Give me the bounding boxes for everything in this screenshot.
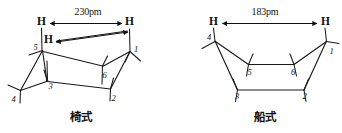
- boat-number-1: 1: [329, 46, 333, 56]
- chair-caption: 椅式: [70, 110, 93, 124]
- chair-inner-arrow: [56, 32, 128, 42]
- chair-h-top-left: H: [37, 15, 46, 27]
- chair-number-2: 2: [111, 93, 116, 103]
- chair-h-inner: H: [44, 33, 53, 45]
- boat-stub-c2-a: [304, 79, 309, 90]
- chair-bond-c3-c2: [48, 82, 111, 90]
- boat-number-5: 5: [247, 67, 251, 77]
- boat-caption: 船式: [254, 110, 277, 124]
- boat-distance-label: 183pm: [252, 6, 279, 17]
- boat-ring-skeleton: [215, 41, 327, 90]
- boat-stub-c4-eq: [202, 42, 215, 49]
- cyclohexane-conformations-figure: 230pm H H H 5 1 6 3 2 4 椅式: [0, 0, 342, 133]
- chair-ring-skeleton: [21, 51, 131, 91]
- chair-stub-c4-b: [20, 91, 21, 104]
- chair-number-3: 3: [47, 81, 52, 91]
- boat-number-3: 3: [234, 91, 239, 101]
- chair-h-top-right: H: [125, 15, 134, 27]
- boat-number-4: 4: [207, 32, 212, 42]
- chair-panel: 230pm H H H 5 1 6 3 2 4 椅式: [8, 6, 141, 124]
- boat-distance-measure: 183pm: [223, 6, 318, 23]
- chair-number-6: 6: [102, 70, 107, 80]
- chair-stub-c5-axial: [42, 28, 43, 51]
- figure-canvas: 230pm H H H 5 1 6 3 2 4 椅式: [0, 0, 342, 133]
- chair-stub-c4-a: [8, 85, 21, 91]
- chair-distance-measure: 230pm: [50, 6, 122, 23]
- boat-stub-c1-eq: [327, 42, 340, 44]
- chair-bond-c6-c5: [43, 52, 103, 67]
- boat-stub-c3-a: [233, 79, 238, 90]
- chair-number-1: 1: [134, 44, 138, 54]
- chair-stub-c3-axial: [47, 61, 48, 82]
- boat-stub-c1-axial: [325, 28, 327, 42]
- boat-h-top-right: H: [321, 15, 330, 27]
- chair-stub-c1-axial: [130, 29, 131, 52]
- boat-h-top-left: H: [209, 15, 218, 27]
- boat-stub-c6-a: [290, 54, 294, 65]
- boat-stub-c4-axial: [214, 28, 216, 42]
- boat-stub-c5-a: [249, 54, 254, 65]
- chair-number-4: 4: [11, 94, 16, 104]
- chair-inner-distance-measure: [56, 31, 128, 42]
- chair-inner-arrow-second-leg: [57, 31, 128, 41]
- boat-number-2: 2: [302, 91, 307, 101]
- chair-distance-label: 230pm: [75, 6, 102, 17]
- boat-bond-c1-c6: [294, 42, 327, 65]
- boat-panel: 183pm H H 4 1 5 6 3 2 船式: [202, 6, 339, 124]
- chair-number-5: 5: [33, 42, 37, 52]
